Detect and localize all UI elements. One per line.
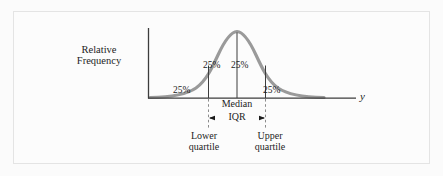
lower-quartile-label: Lower quartile bbox=[176, 131, 232, 153]
upper-quartile-label-line2: quartile bbox=[242, 142, 298, 153]
percent-label-upper-tail: 25% bbox=[263, 85, 280, 95]
x-axis-label: y bbox=[360, 91, 365, 103]
lower-quartile-label-line2: quartile bbox=[176, 142, 232, 153]
y-axis-title-line2: Frequency bbox=[55, 55, 143, 66]
percent-label-lower-tail: 25% bbox=[173, 85, 190, 95]
y-axis-title: Relative Frequency bbox=[55, 44, 143, 67]
y-axis-title-line1: Relative bbox=[55, 44, 143, 55]
percent-label-lower-mid: 25% bbox=[203, 60, 220, 70]
median-label: Median bbox=[206, 99, 268, 110]
iqr-label: IQR bbox=[215, 112, 259, 123]
upper-quartile-label: Upper quartile bbox=[242, 131, 298, 153]
percent-label-upper-mid: 25% bbox=[231, 60, 248, 70]
figure-canvas: Relative Frequency 25% 25% 25% 25% Media… bbox=[0, 0, 443, 176]
